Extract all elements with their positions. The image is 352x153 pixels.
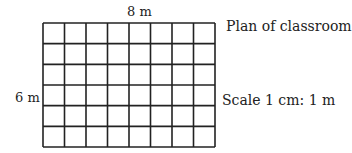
plan-title: Plan of classroom xyxy=(226,19,352,33)
height-label: 6 m xyxy=(15,91,40,104)
classroom-grid xyxy=(42,22,216,148)
width-label: 8 m xyxy=(127,5,152,18)
scale-label: Scale 1 cm: 1 m xyxy=(222,93,335,107)
